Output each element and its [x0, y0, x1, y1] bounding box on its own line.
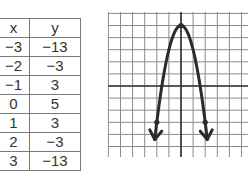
parabola-graph	[0, 0, 248, 180]
axes	[108, 12, 248, 157]
grid-lines	[108, 12, 248, 157]
